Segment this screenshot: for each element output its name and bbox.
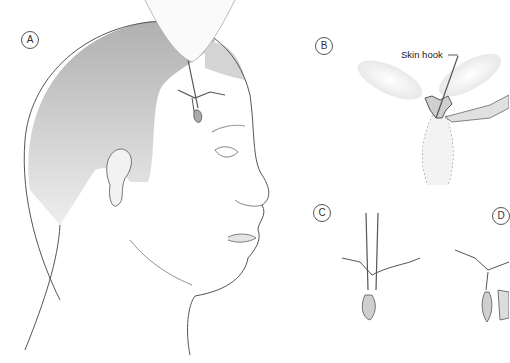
skin-hook-leader-line — [0, 0, 509, 363]
surgical-illustration-figure: A B C D Skin hook — [0, 0, 509, 363]
